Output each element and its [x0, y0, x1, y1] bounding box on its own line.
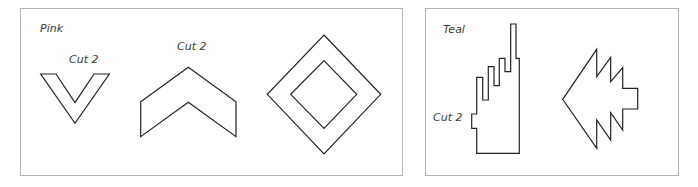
diamond-inner-outline [291, 61, 357, 129]
diamond-outer-outline [267, 35, 380, 154]
stepped-tower-outline [472, 24, 520, 153]
chevron-outline [141, 67, 236, 136]
pattern-shapes [0, 0, 698, 187]
v-shape-outline [41, 74, 110, 123]
tree-arrow-outline [563, 49, 638, 148]
